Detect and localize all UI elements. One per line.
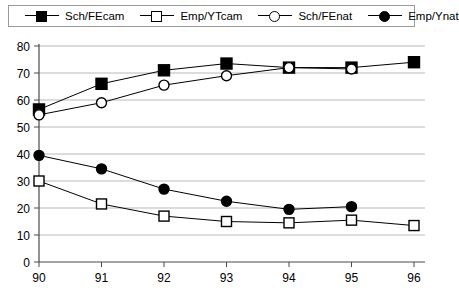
data-point-Sch-FEcam-91 xyxy=(96,78,107,89)
filled-square-icon xyxy=(25,9,59,23)
data-point-Emp-Ynat-90 xyxy=(34,150,44,160)
data-point-Sch-FEcam-93 xyxy=(221,58,232,69)
data-point-Emp-YTcam-90 xyxy=(34,176,44,186)
legend-item-3: Emp/Ynat xyxy=(368,9,459,23)
y-tick-label: 0 xyxy=(23,256,30,270)
y-tick-label: 30 xyxy=(17,175,31,189)
x-tick-label: 94 xyxy=(282,271,296,285)
y-tick-label: 80 xyxy=(17,40,31,54)
data-point-Emp-Ynat-92 xyxy=(159,184,169,194)
legend-item-1: Emp/YTcam xyxy=(140,9,242,23)
open-square-icon xyxy=(140,9,174,23)
series-line-2 xyxy=(39,68,352,115)
data-point-Emp-Ynat-95 xyxy=(347,202,357,212)
data-point-Emp-YTcam-96 xyxy=(409,221,419,231)
y-axis-tick-labels: 01020304050607080 xyxy=(17,40,31,270)
legend-label-1: Emp/YTcam xyxy=(180,10,242,22)
data-point-Sch-FEcam-96 xyxy=(409,57,420,68)
x-tick-label: 91 xyxy=(95,271,109,285)
y-tick-label: 40 xyxy=(17,148,31,162)
data-point-Sch-FEnat-92 xyxy=(159,80,169,90)
data-point-Sch-FEnat-94 xyxy=(284,63,294,73)
data-point-Emp-YTcam-93 xyxy=(222,217,232,227)
y-tick-label: 50 xyxy=(17,121,31,135)
y-tick-label: 60 xyxy=(17,94,31,108)
x-tick-label: 93 xyxy=(220,271,234,285)
legend-label-0: Sch/FEcam xyxy=(65,10,124,22)
data-point-Emp-Ynat-94 xyxy=(284,204,294,214)
filled-circle-icon xyxy=(368,9,402,23)
chart-legend: Sch/FEcam Emp/YTcam Sch/FEnat Emp/Ynat xyxy=(8,5,415,27)
x-tick-label: 92 xyxy=(157,271,171,285)
data-point-Sch-FEcam-92 xyxy=(159,65,170,76)
y-tick-label: 10 xyxy=(17,229,31,243)
data-point-Sch-FEnat-93 xyxy=(222,71,232,81)
x-axis-tick-labels: 90919293949596 xyxy=(32,271,421,285)
data-point-Emp-Ynat-93 xyxy=(222,196,232,206)
data-point-Sch-FEnat-95 xyxy=(347,64,357,74)
plot-svg: 01020304050607080 90919293949596 xyxy=(0,32,433,297)
x-tick-label: 96 xyxy=(407,271,421,285)
series-markers xyxy=(34,57,420,231)
data-point-Emp-YTcam-92 xyxy=(159,211,169,221)
data-point-Emp-YTcam-94 xyxy=(284,218,294,228)
data-point-Emp-YTcam-91 xyxy=(97,199,107,209)
x-tick-label: 90 xyxy=(32,271,46,285)
legend-label-3: Emp/Ynat xyxy=(408,10,459,22)
legend-item-0: Sch/FEcam xyxy=(25,9,124,23)
data-point-Sch-FEnat-90 xyxy=(34,110,44,120)
legend-label-2: Sch/FEnat xyxy=(298,10,352,22)
open-circle-icon xyxy=(258,9,292,23)
data-point-Sch-FEnat-91 xyxy=(97,98,107,108)
legend-item-2: Sch/FEnat xyxy=(258,9,352,23)
series-line-3 xyxy=(39,155,352,209)
y-tick-label: 20 xyxy=(17,202,31,216)
plot-area: 01020304050607080 90919293949596 xyxy=(0,32,433,297)
data-point-Emp-Ynat-91 xyxy=(97,164,107,174)
data-point-Emp-YTcam-95 xyxy=(347,215,357,225)
y-tick-label: 70 xyxy=(17,67,31,81)
x-tick-label: 95 xyxy=(345,271,359,285)
